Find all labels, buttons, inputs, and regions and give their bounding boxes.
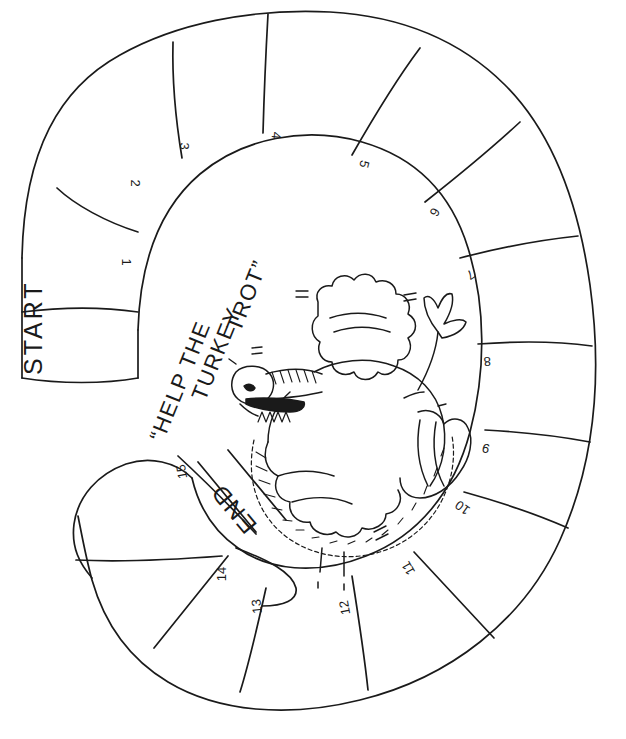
game-board-drawing: “HELP THE TURKEY TROT” START END 1234567…: [0, 0, 626, 739]
paper-background: [0, 0, 626, 739]
track-space-number: 1: [119, 258, 134, 265]
turkey-trot-worksheet: “HELP THE TURKEY TROT” START END 1234567…: [0, 0, 626, 739]
track-space-number: 15: [173, 463, 190, 480]
track-space-number: 8: [483, 354, 492, 370]
track-space-number: 3: [177, 142, 192, 149]
track-space-number: 13: [248, 599, 264, 615]
track-space-number: 2: [128, 179, 143, 186]
track-space-number: 4: [269, 131, 285, 140]
track-space-number: 14: [214, 567, 229, 581]
track-space-number: 12: [336, 599, 353, 616]
start-label: START: [19, 280, 47, 375]
